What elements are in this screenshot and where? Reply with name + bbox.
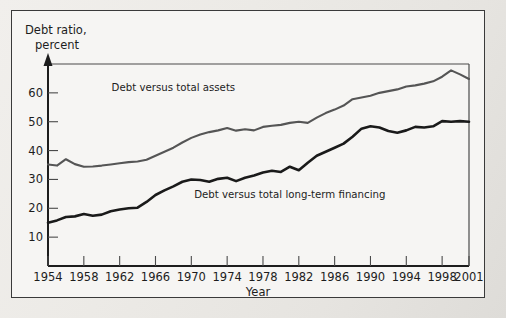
x-tick-label: 1974 bbox=[213, 270, 242, 284]
x-tick-label: 1966 bbox=[141, 270, 170, 284]
x-tick-label: 1986 bbox=[320, 270, 349, 284]
line-chart: Debt ratio, percent 102030405060 bbox=[12, 11, 486, 299]
page-background: Debt ratio, percent 102030405060 bbox=[0, 0, 506, 318]
x-tick-label: 1978 bbox=[248, 270, 277, 284]
y-tick-label: 50 bbox=[28, 115, 43, 129]
x-tick-label: 2001 bbox=[454, 270, 483, 284]
series-annotation-2: Debt versus total long-term financing bbox=[194, 189, 385, 200]
y-tick-label: 10 bbox=[28, 230, 43, 244]
figure-outer-frame: Debt ratio, percent 102030405060 bbox=[11, 10, 485, 298]
y-tick-label: 20 bbox=[28, 201, 43, 215]
x-tick-label: 1998 bbox=[427, 270, 456, 284]
y-tick-label: 60 bbox=[28, 86, 43, 100]
x-tick-label: 1962 bbox=[105, 270, 134, 284]
x-tick-label: 1958 bbox=[69, 270, 98, 284]
x-tick-label: 1990 bbox=[356, 270, 385, 284]
x-axis-label: Year bbox=[245, 285, 271, 299]
x-tick-label: 1994 bbox=[392, 270, 421, 284]
y-tick-label: 30 bbox=[28, 172, 43, 186]
y-axis bbox=[44, 53, 53, 266]
chart-area: Debt ratio, percent 102030405060 bbox=[12, 11, 486, 299]
series-annotations: Debt versus total assetsDebt versus tota… bbox=[112, 82, 386, 200]
x-tick-label: 1954 bbox=[33, 270, 62, 284]
y-tick-label: 40 bbox=[28, 144, 43, 158]
x-tick-label: 1970 bbox=[177, 270, 206, 284]
y-axis-title-line2: percent bbox=[35, 38, 80, 52]
x-tick-group: 1954195819621966197019741978198219861990… bbox=[33, 256, 483, 284]
series-line-2 bbox=[48, 121, 469, 223]
series-annotation-1: Debt versus total assets bbox=[112, 82, 236, 93]
x-tick-label: 1982 bbox=[284, 270, 313, 284]
y-axis-title-line1: Debt ratio, bbox=[25, 23, 87, 37]
